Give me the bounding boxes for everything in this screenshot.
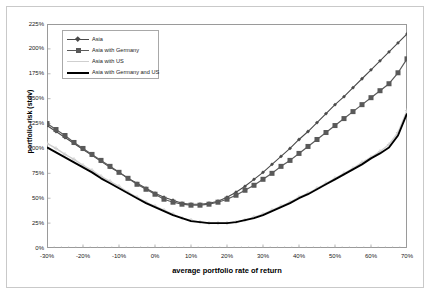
x-tick-label: 0% <box>135 252 175 260</box>
y-tick-text: 0% <box>35 245 44 252</box>
x-tick-text: 20% <box>207 252 247 260</box>
x-tick-text: -30% <box>27 252 67 260</box>
x-tick-text: 30% <box>243 252 283 260</box>
x-tick-text: 50% <box>315 252 355 260</box>
x-tick-label: 50% <box>315 252 355 260</box>
x-tick-label: 70% <box>387 252 427 260</box>
x-tick-text: 70% <box>387 252 427 260</box>
legend-item[interactable]: Asia with US <box>67 56 154 67</box>
legend-label: Asia with Germany and US <box>92 69 159 76</box>
chart-figure: 0%25%50%75%100%125%150%175%200%225% -30%… <box>0 0 435 296</box>
y-tick-text: 75% <box>32 170 44 177</box>
x-tick-label: -20% <box>63 252 103 260</box>
x-tick-text: 10% <box>171 252 211 260</box>
x-tick-label: 30% <box>243 252 283 260</box>
x-tick-label: -30% <box>27 252 67 260</box>
legend-item[interactable]: Asia with Germany <box>67 45 154 56</box>
y-axis-title: portfolio risk (stdv) <box>26 47 33 197</box>
x-tick-text: -10% <box>99 252 139 260</box>
x-tick-label: 60% <box>351 252 391 260</box>
y-tick-text: 25% <box>32 220 44 227</box>
x-tick-label: 40% <box>279 252 319 260</box>
x-tick-text: 0% <box>135 252 175 260</box>
y-tick-label: 25% <box>12 220 44 227</box>
legend-swatch-icon <box>67 35 89 44</box>
x-tick-label: 20% <box>207 252 247 260</box>
x-tick-text: 40% <box>279 252 319 260</box>
x-tick-text: -20% <box>63 252 103 260</box>
chart-legend: AsiaAsia with GermanyAsia with USAsia wi… <box>62 30 159 79</box>
legend-label: Asia with Germany <box>92 47 139 54</box>
legend-item[interactable]: Asia <box>67 34 154 45</box>
y-tick-text: 50% <box>32 195 44 202</box>
legend-swatch-icon <box>67 57 89 66</box>
series-1 <box>47 56 407 207</box>
legend-swatch-icon <box>67 68 89 77</box>
y-tick-text: 225% <box>29 21 44 28</box>
x-tick-text: 60% <box>351 252 391 260</box>
x-axis-title: average portfolio rate of return <box>47 266 407 275</box>
y-tick-label: 0% <box>12 245 44 252</box>
legend-item[interactable]: Asia with Germany and US <box>67 67 154 78</box>
legend-label: Asia <box>92 36 103 43</box>
y-tick-label: 225% <box>12 21 44 28</box>
legend-label: Asia with US <box>92 58 124 65</box>
series-3 <box>47 114 407 224</box>
legend-swatch-icon <box>67 46 89 55</box>
x-tick-label: 10% <box>171 252 211 260</box>
x-tick-label: -10% <box>99 252 139 260</box>
series-2 <box>47 109 407 226</box>
